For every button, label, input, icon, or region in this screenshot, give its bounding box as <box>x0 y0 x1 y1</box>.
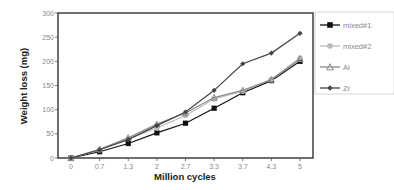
x-axis-ticks: 00.71.322.73.33.74.35 <box>69 158 302 170</box>
y-axis-ticks: 050100150200250300 <box>42 10 58 162</box>
y-tick-label: 50 <box>46 130 54 137</box>
legend-label: mixed#1 <box>343 21 371 30</box>
y-tick-label: 250 <box>42 34 54 41</box>
line-chart: 050100150200250300 00.71.322.73.33.74.35… <box>0 0 394 190</box>
x-tick-label: 3.7 <box>238 163 248 170</box>
x-tick-label: 1.3 <box>123 163 133 170</box>
y-tick-label: 150 <box>42 82 54 89</box>
plot-area <box>58 13 313 158</box>
x-axis-label: Million cycles <box>154 171 216 182</box>
y-tick-label: 100 <box>42 106 54 113</box>
y-tick-label: 0 <box>50 155 54 162</box>
y-tick-label: 300 <box>42 10 54 17</box>
series-zr <box>68 31 302 161</box>
legend-label: mixed#2 <box>343 42 371 51</box>
x-tick-label: 5 <box>298 163 302 170</box>
y-axis-label: Weight loss (mg) <box>18 48 29 124</box>
series-al <box>68 56 303 161</box>
x-tick-label: 0 <box>69 163 73 170</box>
legend: mixed#1mixed#2AlZr <box>315 12 394 94</box>
series-mixed2 <box>68 55 302 160</box>
legend-label: Al <box>343 63 350 72</box>
x-tick-label: 3.3 <box>209 163 219 170</box>
data-series <box>68 31 303 161</box>
legend-label: Zr <box>343 84 351 93</box>
y-tick-label: 200 <box>42 58 54 65</box>
x-tick-label: 2.7 <box>181 163 191 170</box>
x-tick-label: 0.7 <box>95 163 105 170</box>
x-tick-label: 2 <box>155 163 159 170</box>
x-tick-label: 4.3 <box>267 163 277 170</box>
